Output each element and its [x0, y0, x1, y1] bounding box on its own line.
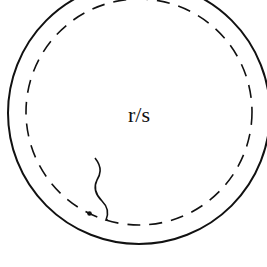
center-label: r/s [128, 102, 150, 127]
circle-diagram: r/s [0, 0, 267, 267]
wavy-line [95, 158, 108, 220]
point-dot [87, 211, 92, 216]
